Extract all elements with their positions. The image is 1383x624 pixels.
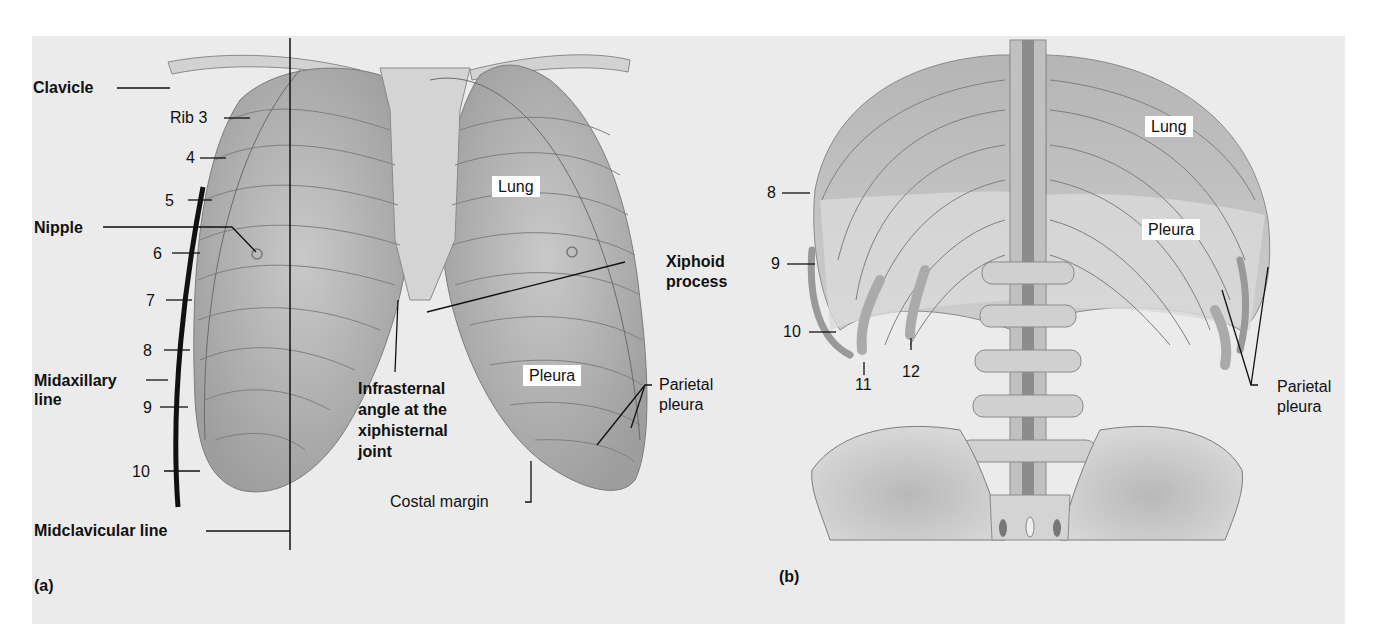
label-rib-6: 6 <box>153 244 162 263</box>
label-lung-a: Lung <box>492 176 540 197</box>
anatomy-illustration <box>0 0 1383 624</box>
label-rib-10-b: 10 <box>783 322 801 341</box>
caption-b: (b) <box>779 567 799 586</box>
label-rib-12-b: 12 <box>902 362 920 381</box>
label-parietal-pleura-a-2: pleura <box>659 395 703 414</box>
label-rib-11-b: 11 <box>855 375 872 394</box>
label-rib-10: 10 <box>132 462 150 481</box>
label-midclavicular-line: Midclavicular line <box>34 521 167 540</box>
label-parietal-pleura-b-1: Parietal <box>1277 377 1331 396</box>
posterior-thorax <box>782 40 1270 540</box>
label-nipple: Nipple <box>34 218 83 237</box>
label-infrasternal-3: xiphisternal <box>358 421 448 440</box>
label-rib-7: 7 <box>146 291 155 310</box>
label-rib-8: 8 <box>143 341 152 360</box>
label-lung-b: Lung <box>1145 116 1193 137</box>
label-rib-5: 5 <box>165 191 174 210</box>
label-rib-3: Rib 3 <box>170 108 207 127</box>
label-clavicle: Clavicle <box>33 78 93 97</box>
label-rib-8-b: 8 <box>767 183 776 202</box>
label-parietal-pleura-b-2: pleura <box>1277 397 1321 416</box>
label-rib-9: 9 <box>143 398 152 417</box>
label-pleura-a: Pleura <box>523 365 581 386</box>
label-pleura-b: Pleura <box>1142 219 1200 240</box>
label-infrasternal-2: angle at the <box>358 400 447 419</box>
label-rib-9-b: 9 <box>771 254 780 273</box>
ribcage-right <box>444 65 647 490</box>
label-midaxillary-line-2: line <box>34 390 62 409</box>
label-costal-margin: Costal margin <box>390 492 489 511</box>
label-midaxillary-line-1: Midaxillary <box>34 371 117 390</box>
label-parietal-pleura-a-1: Parietal <box>659 375 713 394</box>
label-rib-4: 4 <box>186 148 195 167</box>
label-infrasternal-1: Infrasternal <box>358 379 445 398</box>
caption-a: (a) <box>34 576 54 595</box>
label-xiphoid-2: process <box>666 272 727 291</box>
label-infrasternal-4: joint <box>358 442 392 461</box>
label-xiphoid-1: Xiphoid <box>666 252 725 271</box>
